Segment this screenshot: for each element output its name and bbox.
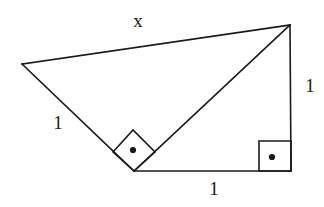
geometry-figure: x 1 1 1 <box>0 0 324 207</box>
right-angle-dot-diamond <box>130 147 136 153</box>
geometry-canvas <box>0 0 324 207</box>
side-label-left-one: 1 <box>53 113 63 132</box>
top-edge-line <box>22 25 290 64</box>
right-angle-dot-square <box>269 154 275 160</box>
right-angle-marker-square <box>259 141 291 171</box>
side-label-x: x <box>133 11 143 30</box>
side-label-right-one: 1 <box>305 76 315 95</box>
side-label-bottom-one: 1 <box>209 179 219 198</box>
diagonal-edge-line <box>134 25 290 171</box>
